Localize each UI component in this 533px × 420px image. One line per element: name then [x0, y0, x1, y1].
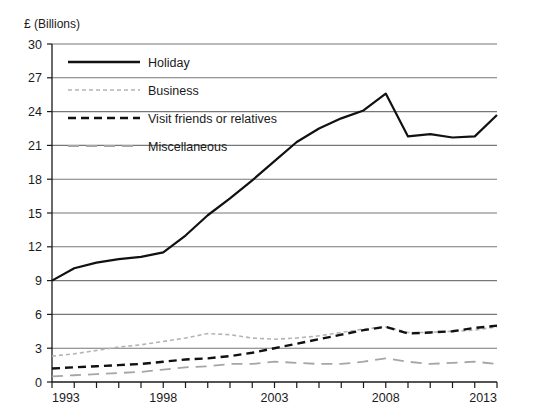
y-axis-tick-label: 0 [35, 376, 42, 390]
legend-label-holiday: Holiday [148, 56, 190, 70]
x-axis-tick-label: 2008 [372, 391, 400, 405]
legend-label-miscellaneous: Miscellaneous [148, 140, 227, 154]
y-axis-tick-label: 9 [35, 274, 42, 288]
y-axis-unit-label: £ (Billions) [24, 17, 80, 31]
y-axis-tick-label: 18 [28, 173, 42, 187]
y-axis-tick-label: 21 [28, 139, 42, 153]
y-axis-tick-label: 24 [28, 105, 42, 119]
y-axis-tick-label: 27 [28, 71, 42, 85]
y-axis-tick-label: 12 [28, 240, 42, 254]
x-axis-tick-label: 1993 [52, 391, 80, 405]
legend-label-visit-friends-or-relatives: Visit friends or relatives [148, 112, 277, 126]
legend-label-business: Business [148, 84, 199, 98]
x-axis-tick-label: 2003 [261, 391, 289, 405]
x-axis-ticks-group [52, 382, 497, 388]
line-chart: £ (Billions) 036912151821242730 19931998… [0, 0, 533, 420]
x-axis-tick-label: 2013 [469, 391, 497, 405]
y-axis-tick-label: 30 [28, 38, 42, 52]
y-axis-tick-label: 3 [35, 342, 42, 356]
y-axis-tick-label: 6 [35, 308, 42, 322]
chart-canvas: £ (Billions) 036912151821242730 19931998… [0, 0, 533, 420]
x-axis-tick-label: 1998 [149, 391, 177, 405]
y-axis-tick-label: 15 [28, 207, 42, 221]
